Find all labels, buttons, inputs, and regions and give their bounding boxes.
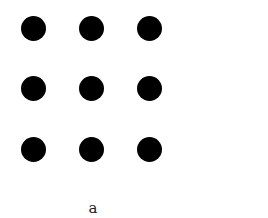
dot-r3-c2	[79, 137, 104, 162]
dot-r2-c2	[79, 76, 104, 101]
dot-r2-c1	[21, 76, 46, 101]
dot-r1-c1	[21, 16, 46, 41]
dot-r1-c3	[137, 16, 162, 41]
figure-caption: a	[0, 199, 186, 217]
dot-r1-c2	[79, 16, 104, 41]
dot-r3-c1	[21, 137, 46, 162]
dot-r3-c3	[137, 137, 162, 162]
dot-r2-c3	[137, 76, 162, 101]
